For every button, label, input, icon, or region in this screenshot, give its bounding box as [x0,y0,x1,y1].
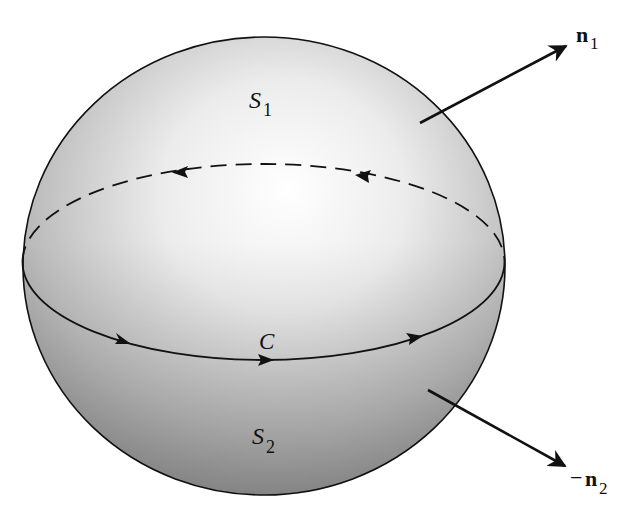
label-neg-n2: n [585,466,597,491]
label-s1-subscript: 1 [263,100,272,120]
label-neg-n2-subscript: 2 [599,479,608,498]
label-curve-c: C [259,329,275,354]
normal-vector-neg-n2-arrow-icon [428,390,565,466]
label-n1: n [576,22,588,47]
normal-vector-n1-arrow-icon [420,46,566,123]
label-s2: S [252,423,264,449]
sphere-stokes-diagram: S 1 S 2 C n 1 − n 2 [0,0,634,512]
label-neg-n2-sign: − [570,465,582,490]
label-n1-subscript: 1 [590,34,599,53]
label-s1: S [249,87,261,113]
label-s2-subscript: 2 [266,437,275,457]
